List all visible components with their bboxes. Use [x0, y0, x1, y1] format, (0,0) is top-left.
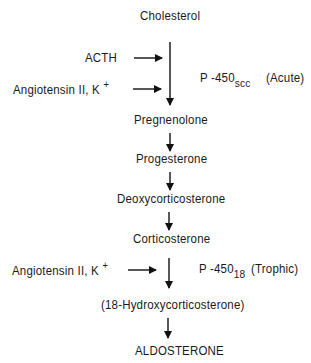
- compound-corticosterone: Corticosterone: [133, 232, 210, 246]
- potassium-charge-1: +: [104, 79, 110, 90]
- regulator-angiotensin-1-text: Angiotensin II, K: [13, 83, 100, 97]
- regulator-angiotensin-1: Angiotensin II, K+: [13, 83, 109, 98]
- phase-acute: (Acute): [266, 71, 304, 85]
- compound-pregnenolone: Pregnenolone: [134, 113, 208, 127]
- phase-trophic: (Trophic): [251, 262, 298, 276]
- enzyme-p450scc-subscript: scc: [235, 77, 251, 89]
- compound-progesterone: Progesterone: [136, 152, 207, 166]
- regulator-acth: ACTH: [85, 51, 117, 65]
- compound-deoxycorticosterone: Deoxycorticosterone: [117, 192, 225, 206]
- enzyme-p45018-text: P -450: [199, 262, 234, 276]
- enzyme-p450scc: P -450scc: [200, 71, 251, 85]
- potassium-charge-2: +: [103, 260, 109, 271]
- compound-aldosterone: ALDOSTERONE: [135, 344, 224, 358]
- regulator-angiotensin-2-text: Angiotensin II, K: [12, 264, 99, 278]
- enzyme-p45018-subscript: 18: [234, 268, 246, 280]
- enzyme-p450scc-text: P -450: [200, 71, 235, 85]
- regulator-angiotensin-2: Angiotensin II, K+: [12, 264, 108, 279]
- enzyme-p45018: P -45018: [199, 262, 245, 276]
- compound-cholesterol: Cholesterol: [140, 9, 200, 23]
- compound-18-hydroxycorticosterone: (18-Hydroxycorticosterone): [101, 298, 244, 312]
